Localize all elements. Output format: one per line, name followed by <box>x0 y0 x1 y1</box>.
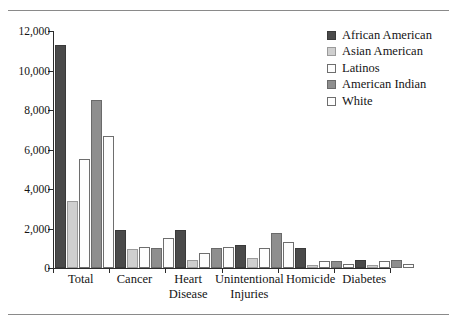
bar[interactable] <box>175 230 186 269</box>
bar[interactable] <box>307 265 318 268</box>
bar[interactable] <box>139 247 150 268</box>
bar[interactable] <box>235 245 246 268</box>
bar[interactable] <box>331 261 342 268</box>
bar[interactable] <box>55 45 66 268</box>
bar[interactable] <box>379 261 390 268</box>
x-category-label: UnintentionalInjuries <box>215 272 284 314</box>
legend-item[interactable]: Latinos <box>327 60 453 77</box>
legend-label: African American <box>342 28 432 43</box>
y-tick-label: 0 <box>44 262 50 274</box>
x-axis-category-labels: TotalCancerHeartDiseaseUnintentionalInju… <box>54 272 391 314</box>
legend-swatch-icon <box>327 64 336 73</box>
bottom-rule <box>8 314 449 315</box>
legend-label: American Indian <box>342 77 426 92</box>
y-tick-label: 12,000 <box>18 25 50 37</box>
bar-group <box>234 31 294 268</box>
legend-item[interactable]: American Indian <box>327 77 453 94</box>
legend-item[interactable]: African American <box>327 27 453 44</box>
legend-swatch-icon <box>327 97 336 106</box>
chart-legend: African AmericanAsian AmericanLatinosAme… <box>327 27 453 110</box>
bar[interactable] <box>283 242 294 268</box>
bar[interactable] <box>199 253 210 268</box>
bar[interactable] <box>211 248 222 268</box>
chart-figure: 02,0004,0006,0008,00010,00012,000 TotalC… <box>0 0 457 328</box>
bar[interactable] <box>247 258 258 268</box>
bar[interactable] <box>391 260 402 268</box>
bar[interactable] <box>259 248 270 268</box>
legend-item[interactable]: White <box>327 93 453 110</box>
top-rule <box>8 10 449 11</box>
bar[interactable] <box>187 260 198 268</box>
y-tick-label: 6,000 <box>24 144 50 156</box>
bar[interactable] <box>295 248 306 268</box>
bar[interactable] <box>163 238 174 268</box>
bar[interactable] <box>67 201 78 268</box>
bar[interactable] <box>343 264 354 268</box>
bar[interactable] <box>319 261 330 268</box>
legend-swatch-icon <box>327 80 336 89</box>
y-tick-label: 8,000 <box>24 104 50 116</box>
bar[interactable] <box>103 136 114 268</box>
bar-group <box>174 31 234 268</box>
legend-label: White <box>342 94 373 109</box>
legend-swatch-icon <box>327 31 336 40</box>
bar[interactable] <box>271 233 282 268</box>
y-tick-label: 4,000 <box>24 183 50 195</box>
x-category-label: Cancer <box>108 272 162 314</box>
y-tick-label: 10,000 <box>18 65 50 77</box>
clipped-title <box>8 0 449 5</box>
bar-group <box>54 31 114 268</box>
bar[interactable] <box>91 100 102 268</box>
bar[interactable] <box>355 260 366 268</box>
bar[interactable] <box>79 159 90 268</box>
bar[interactable] <box>223 247 234 268</box>
x-category-label: HeartDisease <box>161 272 215 314</box>
x-category-label: Total <box>54 272 108 314</box>
bar[interactable] <box>367 265 378 268</box>
bar-group <box>114 31 174 268</box>
y-tick-label: 2,000 <box>24 223 50 235</box>
bar[interactable] <box>115 230 126 269</box>
legend-label: Asian American <box>342 44 423 59</box>
bar[interactable] <box>151 248 162 268</box>
legend-swatch-icon <box>327 47 336 56</box>
x-category-label: Diabetes <box>337 272 391 314</box>
bar[interactable] <box>403 264 414 268</box>
x-category-label: Homicide <box>284 272 338 314</box>
legend-label: Latinos <box>342 61 380 76</box>
legend-item[interactable]: Asian American <box>327 44 453 61</box>
bar[interactable] <box>127 249 138 268</box>
